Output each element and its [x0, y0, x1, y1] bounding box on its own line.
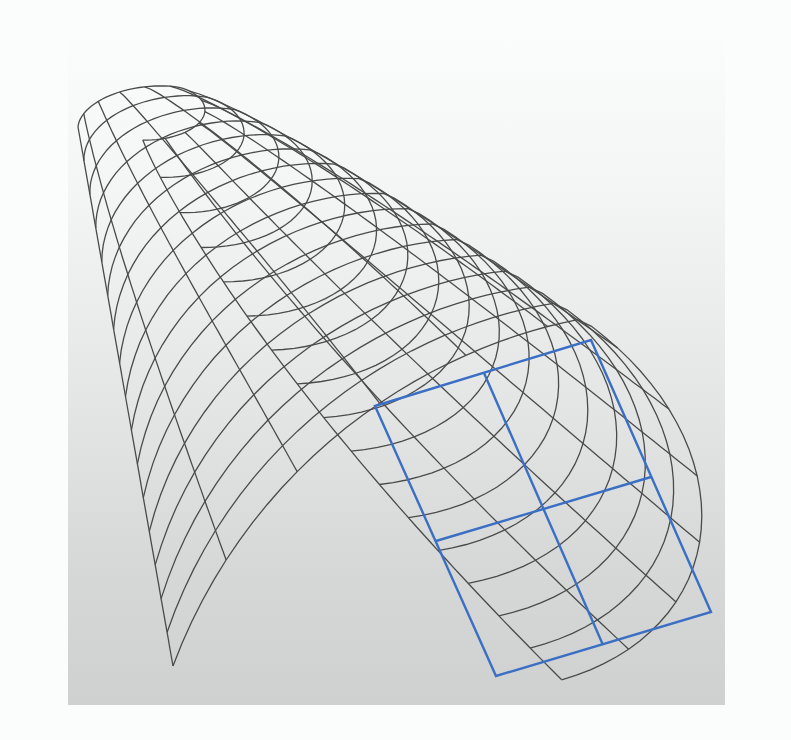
mesh-line: [205, 112, 697, 476]
overlay-horizontal-divider: [436, 477, 651, 541]
mesh-line: [149, 255, 588, 550]
mesh-line: [190, 91, 618, 348]
mesh-line: [165, 138, 628, 649]
mesh-line: [199, 123, 700, 542]
mesh-line: [84, 114, 226, 560]
mesh-line: [78, 86, 205, 140]
mesh-line: [78, 127, 173, 666]
figure-panel: [68, 33, 725, 705]
mesh-line: [202, 100, 669, 409]
blue-grid-overlay: [375, 340, 711, 676]
mesh-line: [155, 271, 617, 583]
mesh-line: [98, 101, 297, 471]
wireframe-mesh: [78, 86, 702, 680]
mesh-surface-diagram: [68, 33, 725, 705]
